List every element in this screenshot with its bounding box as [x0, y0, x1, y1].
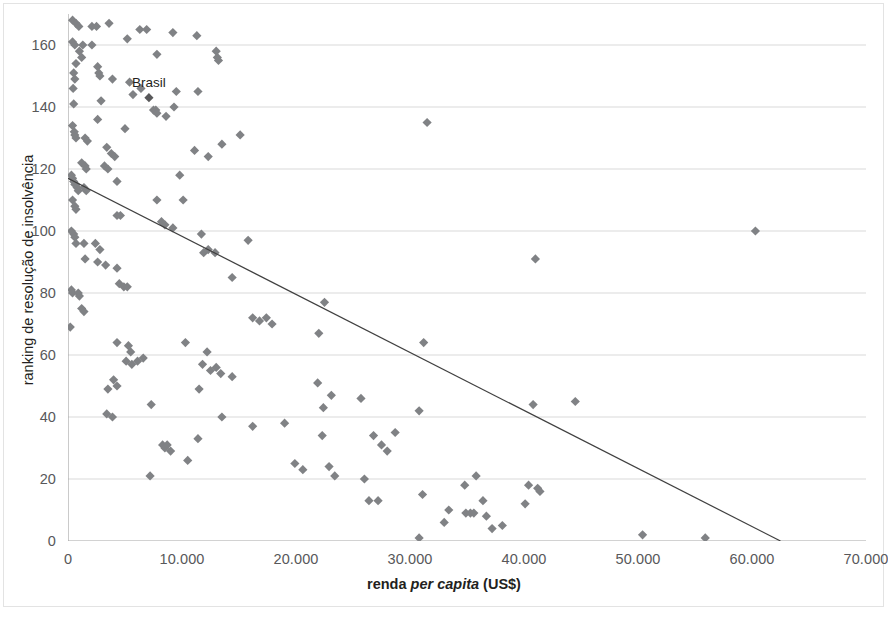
- data-point: [152, 195, 161, 204]
- data-point: [228, 372, 237, 381]
- data-point: [320, 298, 329, 307]
- data-point: [152, 50, 161, 59]
- gridlines: [68, 45, 866, 479]
- data-point: [70, 75, 79, 84]
- data-point: [444, 505, 453, 514]
- data-point: [179, 195, 188, 204]
- data-point: [460, 481, 469, 490]
- x-axis-tick-label: 0: [64, 551, 72, 567]
- data-point: [104, 19, 113, 28]
- trendline: [68, 178, 781, 541]
- data-point: [571, 397, 580, 406]
- data-point: [248, 422, 257, 431]
- x-axis-tick-label: 40.000: [502, 551, 547, 567]
- x-axis-tick-label: 60.000: [730, 551, 775, 567]
- data-point: [93, 115, 102, 124]
- data-point: [415, 406, 424, 415]
- trendline-segment: [68, 178, 781, 541]
- data-point: [423, 118, 432, 127]
- scatter-chart-figure: Brasil 020406080100120140160 010.00020.0…: [0, 0, 888, 617]
- data-point: [521, 499, 530, 508]
- x-axis-title-italic: per capita: [411, 576, 480, 592]
- data-point-series: [68, 16, 760, 541]
- data-point: [108, 75, 117, 84]
- data-point: [280, 419, 289, 428]
- data-point: [161, 112, 170, 121]
- data-point: [318, 431, 327, 440]
- data-point: [120, 124, 129, 133]
- data-point: [529, 400, 538, 409]
- data-point: [68, 323, 75, 332]
- data-point: [377, 440, 386, 449]
- data-point: [478, 496, 487, 505]
- y-axis-tick-label: 160: [0, 37, 56, 53]
- x-axis-title-post: (US$): [479, 576, 521, 592]
- highlighted-data-point: [144, 93, 153, 102]
- data-point: [183, 456, 192, 465]
- data-point: [360, 474, 369, 483]
- data-point: [319, 403, 328, 412]
- data-point: [364, 496, 373, 505]
- data-point: [487, 524, 496, 533]
- plot-canvas: [68, 14, 866, 541]
- data-point: [103, 385, 112, 394]
- data-point: [482, 512, 491, 521]
- data-point: [181, 338, 190, 347]
- data-point: [383, 447, 392, 456]
- data-point: [147, 400, 156, 409]
- data-point: [71, 59, 80, 68]
- data-point: [356, 394, 365, 403]
- data-point: [198, 360, 207, 369]
- data-point: [112, 338, 121, 347]
- data-point: [169, 102, 178, 111]
- data-point: [418, 490, 427, 499]
- data-point: [172, 87, 181, 96]
- data-point: [79, 239, 88, 248]
- data-point: [267, 319, 276, 328]
- data-point: [391, 428, 400, 437]
- data-point: [440, 518, 449, 527]
- data-point: [168, 28, 177, 37]
- data-point: [298, 465, 307, 474]
- data-point: [128, 90, 137, 99]
- data-point: [193, 434, 202, 443]
- x-axis-tick-label: 10.000: [160, 551, 205, 567]
- data-point: [204, 152, 213, 161]
- data-point: [313, 378, 322, 387]
- data-point: [290, 459, 299, 468]
- y-axis-tick-label: 0: [0, 533, 56, 549]
- data-point: [415, 533, 424, 541]
- x-axis-tick-label: 70.000: [844, 551, 888, 567]
- data-point: [101, 261, 110, 270]
- data-point: [193, 87, 202, 96]
- data-point: [112, 264, 121, 273]
- data-point: [369, 431, 378, 440]
- data-point: [81, 254, 90, 263]
- y-axis-tick-label: 20: [0, 471, 56, 487]
- data-point: [327, 391, 336, 400]
- data-point: [93, 257, 102, 266]
- data-point: [324, 462, 333, 471]
- data-point: [217, 140, 226, 149]
- data-point: [751, 226, 760, 235]
- data-point: [190, 146, 199, 155]
- x-axis-tick-label: 20.000: [274, 551, 319, 567]
- data-point: [195, 385, 204, 394]
- data-point: [419, 338, 428, 347]
- data-point: [373, 496, 382, 505]
- x-axis-tick-label: 50.000: [616, 551, 661, 567]
- data-point: [236, 130, 245, 139]
- data-point: [175, 171, 184, 180]
- data-point: [701, 533, 710, 541]
- plot-area: Brasil: [68, 14, 866, 541]
- data-point: [69, 84, 78, 93]
- data-point: [142, 25, 151, 34]
- data-point: [71, 239, 80, 248]
- data-point: [87, 40, 96, 49]
- x-axis-title-pre: renda: [367, 576, 411, 592]
- data-point: [228, 273, 237, 282]
- data-point: [524, 481, 533, 490]
- y-axis-title: ranking de resolução de insolvência: [20, 105, 36, 435]
- data-point: [638, 530, 647, 539]
- data-point: [192, 31, 201, 40]
